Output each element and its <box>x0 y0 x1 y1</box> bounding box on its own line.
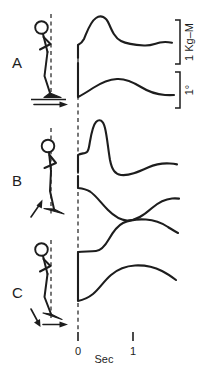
head-b <box>42 140 55 153</box>
panel-label-b: B <box>12 172 22 189</box>
angle-trace-c <box>78 265 176 301</box>
stick-figure-b <box>31 128 64 217</box>
angle-trace-b <box>78 176 179 221</box>
scale-bar-torque: 1 Kg–M <box>175 20 195 64</box>
stick-figure-c <box>31 240 68 328</box>
head-c <box>35 243 48 256</box>
figure-root: A B C <box>0 0 210 367</box>
stick-figure-a <box>31 14 68 108</box>
x-axis-label: Sec <box>95 353 114 365</box>
scale-bar-angle: 1° <box>175 72 195 108</box>
x-axis: 0 1 Sec <box>75 332 136 365</box>
torque-trace-c <box>78 219 178 272</box>
traces-panel-c <box>78 219 178 301</box>
traces-panel-b <box>78 120 179 220</box>
torque-trace-b <box>78 120 177 175</box>
scale-bar-torque-label: 1 Kg–M <box>183 23 195 61</box>
panel-label-a: A <box>12 54 22 71</box>
panel-label-c: C <box>12 284 23 301</box>
arrow-rotation-up-left-b <box>31 200 43 218</box>
head-a <box>35 21 48 34</box>
foot-a <box>44 93 61 98</box>
traces-panel-a <box>78 16 174 97</box>
arrow-diagonal-down-left-c <box>31 309 41 327</box>
arrow-horizontal-right-a <box>34 101 68 107</box>
leg-c <box>45 274 52 314</box>
arrow-horizontal-right-c <box>43 321 68 327</box>
foot-c <box>43 313 62 320</box>
x-tick-label-zero: 0 <box>75 345 81 357</box>
foot-b <box>44 209 64 215</box>
torque-trace-a <box>78 16 172 58</box>
leg-a <box>45 52 51 93</box>
scale-bar-angle-label: 1° <box>183 85 195 96</box>
x-tick-label-one: 1 <box>130 345 136 357</box>
angle-trace-a <box>78 63 174 97</box>
postural-response-figure: A B C <box>0 0 210 367</box>
